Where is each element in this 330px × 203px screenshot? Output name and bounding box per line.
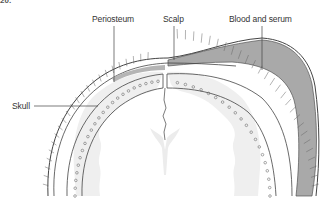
hair-strand	[47, 158, 52, 161]
diploe-dot	[268, 178, 271, 181]
midline-fissure	[163, 88, 166, 140]
hair-strand	[285, 99, 291, 105]
hair-strand	[270, 78, 275, 85]
hair-strand	[290, 107, 296, 113]
label-scalp: Scalp	[163, 15, 184, 24]
brain-right-hemisphere	[167, 72, 260, 196]
diploe-dot	[266, 170, 269, 173]
hair-strand	[45, 167, 50, 169]
diploe-dot	[264, 161, 267, 164]
hair-strand	[209, 36, 210, 45]
brain-left-hemisphere	[74, 72, 163, 196]
head-cross-section	[0, 0, 330, 203]
diploe-dot	[268, 186, 271, 189]
diploe-dot	[74, 195, 77, 198]
brain	[74, 72, 261, 196]
diagram: 20.	[0, 0, 330, 203]
diploe-dot	[261, 153, 264, 156]
hair-strand	[281, 92, 286, 99]
hair-strand	[193, 31, 194, 40]
hair-strand	[119, 62, 120, 69]
hair-strand	[276, 85, 281, 92]
label-blood-and-serum: Blood and serum	[229, 15, 292, 24]
hair-strand	[264, 72, 268, 79]
ventricle	[150, 128, 180, 175]
label-skull: Skull	[12, 102, 30, 111]
label-periosteum: Periosteum	[92, 15, 134, 24]
hair-strand	[201, 33, 202, 42]
hair-strand	[126, 59, 127, 67]
diploe-dot	[269, 195, 272, 198]
